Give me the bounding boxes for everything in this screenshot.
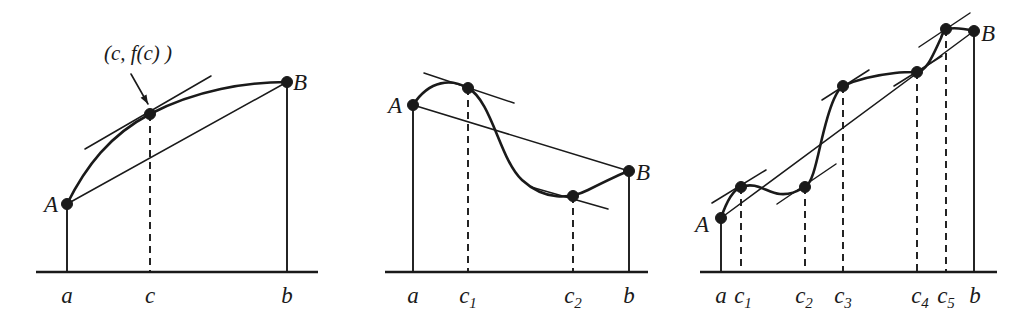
point-label-A: A: [386, 93, 403, 118]
axis-label-b: b: [969, 283, 981, 308]
coordinate-annotation-label: (c, f(c) ): [104, 41, 172, 65]
point-marker-B: [624, 166, 635, 177]
axis-label-subscript-c4: 4: [921, 295, 929, 311]
axis-label-a: a: [61, 283, 73, 308]
axis-label-c1: c1: [734, 283, 752, 311]
secant-line-ab: [67, 82, 287, 204]
point-marker-tangent-point-c4: [912, 67, 923, 78]
figure-root: ABacb(c, f(c) )ABac1c2bABac1c2c3c4c5b: [0, 0, 1031, 329]
axis-label-subscript-c2: 2: [805, 295, 813, 311]
axis-label-c2: c2: [795, 283, 813, 311]
axis-label-subscript-c1: 1: [744, 295, 752, 311]
secant-line-ab: [413, 105, 629, 171]
axis-label-c3: c3: [834, 283, 852, 311]
point-label-A: A: [693, 212, 710, 237]
two-tangent-points-panel: ABac1c2b: [385, 73, 650, 311]
point-marker-B: [969, 26, 980, 37]
point-marker-A: [716, 213, 727, 224]
point-marker-A: [62, 199, 73, 210]
point-marker-tangent-point-c1: [736, 182, 747, 193]
point-marker-A: [408, 100, 419, 111]
point-marker-tangent-point-c3: [838, 81, 849, 92]
axis-label-b: b: [281, 283, 293, 308]
point-marker-tangent-point-c5: [941, 24, 952, 35]
point-marker-tangent-point-c: [145, 109, 156, 120]
axis-label-subscript-c1: 1: [469, 295, 477, 311]
point-marker-tangent-point-c2: [568, 191, 579, 202]
axis-label-a: a: [407, 283, 419, 308]
axis-label-c1: c1: [459, 283, 477, 311]
point-label-B: B: [293, 70, 307, 95]
point-marker-tangent-point-c2: [800, 182, 811, 193]
mean-value-theorem-figure: ABacb(c, f(c) )ABac1c2bABac1c2c3c4c5b: [0, 0, 1031, 329]
point-label-B: B: [981, 21, 995, 46]
axis-label-c5: c5: [937, 283, 955, 311]
axis-label-a: a: [715, 283, 727, 308]
point-marker-B: [282, 77, 293, 88]
axis-label-c2: c2: [564, 283, 582, 311]
axis-label-subscript-c3: 3: [843, 295, 852, 311]
annotation-arrow-head: [141, 94, 148, 104]
point-label-A: A: [42, 192, 59, 217]
axis-label-c4: c4: [911, 283, 929, 311]
axis-label-c: c: [145, 283, 155, 308]
function-curve: [413, 83, 629, 197]
point-label-B: B: [636, 160, 650, 185]
five-tangent-points-panel: ABac1c2c3c4c5b: [693, 13, 997, 311]
single-tangent-point-panel: ABacb(c, f(c) ): [36, 41, 318, 308]
axis-label-subscript-c2: 2: [574, 295, 582, 311]
axis-label-b: b: [623, 283, 635, 308]
point-marker-tangent-point-c1: [463, 83, 474, 94]
axis-label-subscript-c5: 5: [947, 295, 955, 311]
